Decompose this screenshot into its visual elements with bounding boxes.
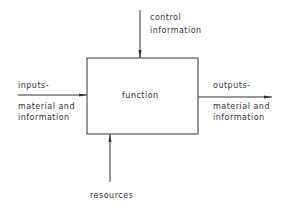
inputs-label-line3: information: [18, 112, 70, 123]
outputs-label-line3: information: [213, 112, 265, 123]
inputs-label-line1: inputs-: [18, 80, 49, 91]
inputs-label-line2: material and: [18, 101, 75, 112]
control-label-line1: control: [150, 12, 181, 23]
outputs-label-line1: outputs-: [213, 80, 250, 91]
function-diagram: control information function inputs- mat…: [0, 0, 286, 209]
resources-label: resources: [90, 190, 133, 201]
control-label-line2: information: [150, 25, 202, 36]
function-label: function: [122, 90, 159, 101]
outputs-label-line2: material and: [213, 101, 270, 112]
